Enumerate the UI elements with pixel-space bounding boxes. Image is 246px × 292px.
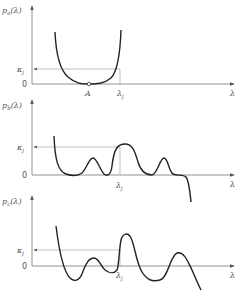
panel-c: pc(λ) λ 0 κj λj <box>2 196 235 290</box>
lambda-j-label: λj <box>115 271 123 282</box>
a-label: A <box>84 89 91 98</box>
zero-label: 0 <box>22 80 27 89</box>
panel-b: pb(λ) λ 0 κj λj <box>2 100 235 202</box>
y-axis-label: pa(λ) <box>2 6 22 16</box>
curve-pa <box>55 30 121 84</box>
lambda-j-label: λj <box>116 89 124 100</box>
curve-pc <box>56 226 201 290</box>
kappa-label: κj <box>16 143 24 154</box>
point-a-marker <box>87 82 91 86</box>
x-axis-label: λ <box>229 271 235 280</box>
y-axis-label: pc(λ) <box>2 197 22 207</box>
y-axis-label: pb(λ) <box>2 101 22 111</box>
lambda-j-label: λj <box>115 181 123 192</box>
figure: pa(λ) λ 0 κj A λj pb(λ) λ 0 κj λj pc(λ) … <box>0 0 246 292</box>
x-axis-label: λ <box>229 89 235 98</box>
curve-pb <box>54 136 191 202</box>
panel-a: pa(λ) λ 0 κj A λj <box>2 6 235 100</box>
kappa-label: κj <box>16 65 24 76</box>
zero-label: 0 <box>22 262 27 271</box>
x-axis-label: λ <box>229 180 235 189</box>
kappa-label: κj <box>16 246 24 257</box>
zero-label: 0 <box>22 171 27 180</box>
